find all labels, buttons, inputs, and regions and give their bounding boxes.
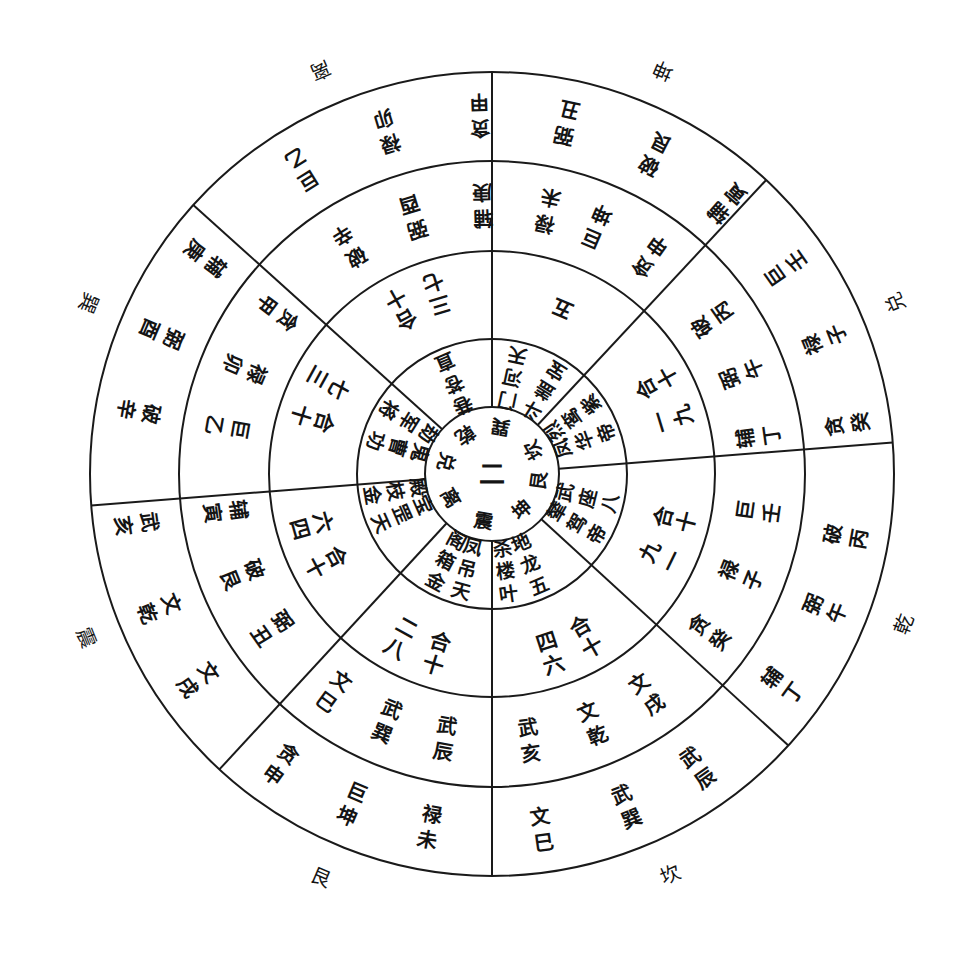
ring4-stem-star: 艮破 [635, 127, 676, 181]
ring2-number-col: 一九 [634, 536, 688, 576]
ring3-stem-star: 辛破 [328, 219, 371, 272]
ring4-stem-star-char: 乾 [132, 600, 162, 628]
ring1-star-name-char: 金 [360, 483, 385, 508]
ring3-stem-star-char: 弼 [404, 215, 430, 244]
ring4-stem-star-char: 未 [415, 827, 439, 854]
ring3-stem-star-char: 巨 [226, 418, 253, 442]
ring4-stem-star: 申贪 [258, 738, 304, 790]
ring3-stem-star: 午弼 [714, 355, 768, 392]
ring4-stem-star: 午弼 [798, 590, 852, 627]
ring3-stem-star-char: 坤 [588, 199, 616, 229]
ring2-number-col: 十合 [648, 502, 701, 535]
ring3-stem-star-char: 禄 [532, 210, 558, 238]
ring4-stem-star-char: 禄 [420, 801, 445, 828]
ring1-star-name-char: 天 [505, 343, 529, 369]
ring3-stem-star-char: 乙 [201, 413, 228, 437]
ring3-stem-star: 乙巨 [201, 413, 254, 441]
ring4-stem-star-char: 亥 [110, 514, 137, 537]
ring3-stem-star-char: 寅 [199, 502, 226, 525]
ring4-stem-star-char: 弼 [552, 122, 577, 150]
core-trigram-label: 兑 [434, 450, 460, 474]
direction-label: 巽 [74, 289, 104, 317]
ring1-star-name: 天河门 [496, 343, 529, 414]
ring4-stem-star: 丙破 [819, 522, 872, 550]
ring4-stem-star-char: 子 [822, 321, 852, 349]
ring3-stem-star: 艮破 [216, 556, 270, 594]
ring4-stem-star-char: 巽 [618, 804, 646, 834]
sector-divider-line [559, 442, 893, 468]
ring1-star-name-char: 叶 [498, 582, 520, 606]
ring2-number-col: 九一 [645, 402, 698, 436]
ring3-stem-star: 丑弼 [245, 606, 297, 651]
ring4-stem-star: 未禄 [415, 801, 444, 854]
ring4-stem-star-char: 贪 [469, 116, 491, 141]
ring2-number-col: 十合 [299, 541, 353, 583]
ring2-number-col: 十合 [380, 283, 422, 337]
ring4-stem-star-char: 坤 [333, 801, 361, 831]
ring3-stem-star-char: 庚 [472, 180, 493, 205]
ring1-star-name-char: 座 [574, 486, 600, 510]
ring4-stem-star-char: 甲 [469, 90, 490, 115]
direction-label: 离 [307, 56, 335, 86]
ring1-star-name-char: 楼 [495, 559, 517, 583]
ring3-stem-star: 庚辅 [472, 180, 494, 231]
ring3-stem-star-char: 亥 [520, 740, 543, 767]
ring3-stem-star-char: 巽 [368, 719, 396, 749]
ring4-stem-star-char: 癸 [847, 410, 874, 435]
core-trigram-label: 艮 [526, 469, 551, 492]
ring3-stem-star-char: 艮 [216, 566, 246, 594]
ring2-number-col: 十合 [629, 362, 683, 404]
ring3-stem-star: 子禄 [714, 555, 768, 593]
ring4-stem-star: 坤巨 [333, 778, 371, 832]
ring4-stem-star-char: 禄 [377, 129, 404, 158]
ring1-star-name-char: 杀 [491, 536, 513, 560]
ring3-stem-star-char: 子 [739, 566, 769, 594]
ring4-stem-star: 癸贪 [821, 410, 874, 438]
ring3-stem-star: 酉弼 [396, 190, 430, 244]
ring4-stem-star: 壬巨 [760, 246, 812, 291]
direction-label: 艮 [307, 862, 335, 892]
ring3-stem-star-char: 辅 [473, 206, 494, 231]
ring4-stem-star-char: 辛 [112, 397, 139, 421]
sector-labels: 二坎艮坤震离兑乾巽离坤兑乾坎艮震巽直苍巷天河门宝盖斗紫鸾烈帝华凤八座武帝驾辇五龙… [71, 56, 918, 892]
ring1-star-name-char: 天 [449, 578, 474, 604]
ring3-stem-star-char: 午 [739, 355, 769, 383]
ring4-stem-star: 丑弼 [552, 96, 582, 149]
ring3-stem-star: 坤巨 [578, 199, 616, 253]
ring4-stem-star: 庚辅 [179, 235, 231, 281]
ring4-stem-star: 巳文 [529, 803, 556, 855]
ring3-stem-star: 乾文 [574, 696, 611, 750]
ring2-number-label: 五 [548, 293, 577, 324]
ring4-stem-star-char: 破 [138, 402, 165, 426]
ring2-number-col: 七三 [420, 268, 454, 321]
ring3-stem-star-char: 酉 [396, 190, 422, 219]
ring1-star-name-char: 枝 [383, 480, 408, 504]
core-trigram-label: 乾 [451, 421, 479, 450]
ring4-stem-star: 亥武 [110, 511, 162, 538]
ring3-stem-star: 巽武 [368, 695, 406, 749]
core-trigram-label: 坤 [508, 495, 537, 524]
ring3-stem-star: 癸贪 [684, 609, 737, 656]
core-trigram-label: 坎 [518, 437, 547, 464]
ring3-stem-star: 辰武 [431, 713, 459, 766]
ring3-stem-star: 未禄 [532, 184, 563, 237]
ring2-number-col: 十合 [420, 627, 455, 680]
ring4-stem-star: 巽武 [608, 780, 645, 834]
ring3-stem-star-char: 丁 [758, 423, 785, 446]
ring3-stem-star-char: 辅 [732, 427, 759, 450]
ring3-stem-star: 巳文 [311, 666, 357, 718]
direction-label: 震 [71, 624, 101, 652]
ring2-number-col: 十合 [286, 402, 339, 437]
ring3-stem-star: 丁辅 [732, 423, 784, 450]
ring3-stem-star-char: 乾 [584, 721, 612, 751]
ring3-stem-star-char: 巨 [732, 498, 759, 521]
ring1-star-name: 直苍巷 [432, 349, 477, 419]
ring3-stem-star: 卯禄 [217, 350, 271, 389]
core-trigram-label: 离 [437, 484, 466, 511]
ring4-stem-star-char: 午 [822, 600, 852, 628]
ring4-stem-star-char: 巳 [532, 829, 555, 856]
ring4-stem-star: 辰武 [675, 742, 721, 794]
direction-label: 乾 [889, 610, 918, 637]
ring3-stem-star-char: 壬 [758, 502, 785, 525]
ring4-stem-star: 乾文 [132, 590, 186, 627]
